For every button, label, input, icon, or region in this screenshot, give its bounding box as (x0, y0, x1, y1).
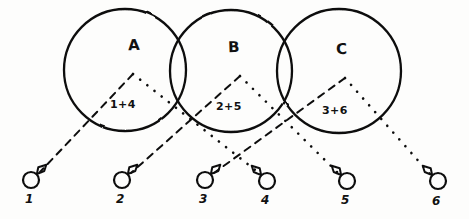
set-expression-b: 2+5 (216, 100, 242, 113)
leaf-node-2[interactable] (114, 165, 137, 188)
node-label-5: 5 (341, 193, 349, 207)
node-pennant-icon (128, 165, 138, 175)
connector-b-2[interactable] (131, 76, 240, 173)
connector-a-1[interactable] (40, 74, 133, 172)
set-circle-b[interactable] (170, 10, 292, 132)
set-label-a: A (128, 36, 141, 54)
node-pennant-icon (252, 166, 262, 176)
leaf-node-5[interactable] (332, 166, 355, 189)
node-pennant-icon (332, 166, 342, 176)
node-pennant-icon (423, 166, 433, 176)
diagram-canvas: A B C 1+4 2+5 3+6 1 2 3 4 5 6 (0, 0, 469, 219)
leaf-node-6[interactable] (423, 166, 446, 189)
connector-c-3[interactable] (214, 78, 345, 173)
set-circle-a[interactable] (64, 9, 186, 131)
set-label-c: C (336, 40, 348, 58)
node-label-2: 2 (116, 192, 124, 206)
set-expression-a: 1+4 (110, 98, 136, 111)
node-label-1: 1 (25, 192, 33, 206)
node-label-4: 4 (261, 193, 269, 207)
set-label-b: B (228, 38, 241, 56)
node-label-3: 3 (199, 192, 207, 206)
connector-c-6[interactable] (345, 78, 430, 174)
node-label-6: 6 (432, 194, 440, 208)
node-pennant-icon (211, 165, 221, 175)
leaf-node-3[interactable] (197, 165, 220, 188)
set-expression-c: 3+6 (322, 104, 348, 117)
